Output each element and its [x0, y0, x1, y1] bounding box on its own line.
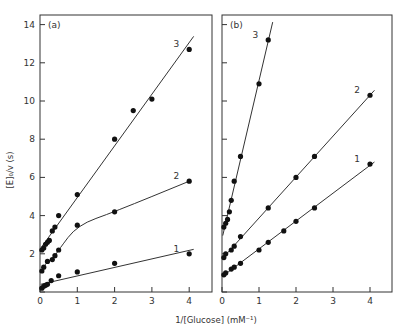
data-point: [232, 265, 237, 270]
data-point: [312, 154, 317, 159]
panel-b: 01234(b)123: [219, 15, 392, 306]
x-tick-label: 2: [112, 296, 118, 306]
series-label: 2: [354, 85, 360, 95]
panel-a: 012342468101214(a)123: [24, 15, 212, 306]
data-point: [56, 273, 61, 278]
fit-line: [41, 36, 194, 248]
series-label: 3: [253, 30, 259, 40]
y-tick-label: 14: [24, 20, 36, 30]
series-label: 1: [354, 154, 360, 164]
data-point: [75, 223, 80, 228]
data-point: [367, 161, 372, 166]
fit-line: [41, 249, 194, 284]
data-point: [229, 198, 234, 203]
data-point: [238, 154, 243, 159]
data-point: [223, 251, 228, 256]
kinetics-figure: 012342468101214(a)12301234(b)123[E]₀/v (…: [0, 0, 405, 335]
fit-line: [42, 181, 189, 271]
data-point: [367, 93, 372, 98]
y-tick-label: 8: [29, 134, 35, 144]
data-point: [293, 219, 298, 224]
data-point: [256, 247, 261, 252]
data-point: [266, 205, 271, 210]
x-tick-label: 0: [37, 296, 43, 306]
data-point: [312, 205, 317, 210]
data-point: [112, 261, 117, 266]
series-label: 3: [173, 39, 179, 49]
x-tick-label: 4: [186, 296, 192, 306]
data-point: [49, 278, 54, 283]
data-point: [225, 217, 230, 222]
fit-line: [223, 22, 273, 236]
plot-frame: [222, 15, 392, 292]
data-point: [256, 81, 261, 86]
data-point: [266, 240, 271, 245]
x-tick-label: 4: [367, 296, 373, 306]
data-point: [75, 269, 80, 274]
y-tick-label: 10: [24, 96, 36, 106]
data-point: [41, 265, 46, 270]
data-point: [232, 244, 237, 249]
series-2: 2: [39, 171, 192, 273]
data-point: [47, 238, 52, 243]
data-point: [56, 213, 61, 218]
data-point: [112, 137, 117, 142]
data-point: [75, 192, 80, 197]
x-tick-label: 1: [256, 296, 262, 306]
series-1: 1: [221, 154, 374, 277]
data-point: [131, 108, 136, 113]
data-point: [227, 209, 232, 214]
data-point: [187, 179, 192, 184]
series-3: 3: [39, 36, 193, 252]
series-2: 2: [221, 85, 374, 260]
data-point: [223, 270, 228, 275]
data-point: [112, 209, 117, 214]
data-point: [187, 251, 192, 256]
series-1: 1: [39, 244, 193, 291]
y-tick-label: 12: [24, 58, 35, 68]
y-tick-label: 2: [29, 249, 35, 259]
data-point: [238, 234, 243, 239]
data-point: [45, 282, 50, 287]
data-point: [238, 261, 243, 266]
x-tick-label: 3: [149, 296, 155, 306]
data-point: [52, 224, 57, 229]
data-point: [281, 228, 286, 233]
x-axis-label: 1/[Glucose] (mM⁻¹): [175, 315, 257, 325]
data-point: [266, 37, 271, 42]
x-tick-label: 2: [293, 296, 299, 306]
data-point: [232, 179, 237, 184]
data-point: [45, 259, 50, 264]
data-point: [149, 96, 154, 101]
y-tick-label: 6: [29, 172, 35, 182]
data-point: [293, 175, 298, 180]
y-tick-label: 4: [29, 211, 35, 221]
data-point: [56, 247, 61, 252]
x-tick-label: 3: [330, 296, 336, 306]
series-label: 1: [173, 244, 179, 254]
y-axis-label: [E]₀/v (s): [5, 151, 15, 188]
fit-line: [223, 90, 375, 258]
series-3: 3: [221, 22, 272, 236]
data-point: [52, 253, 57, 258]
x-tick-label: 1: [74, 296, 80, 306]
panel-label: (b): [230, 20, 243, 30]
fit-line: [223, 162, 375, 276]
panel-label: (a): [48, 20, 61, 30]
plot-frame: [40, 15, 212, 292]
x-tick-label: 0: [219, 296, 225, 306]
data-point: [187, 47, 192, 52]
series-label: 2: [173, 171, 179, 181]
